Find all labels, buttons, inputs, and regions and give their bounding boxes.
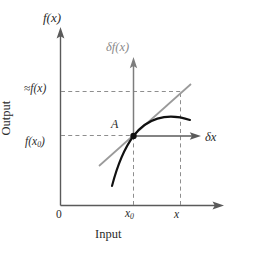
point-a-marker <box>130 133 136 139</box>
derivative-linearization-figure: f(x) δf(x) δx ≈f(x) f(x0) A 0 x0 x Input… <box>0 0 253 254</box>
delta-x-axis-label: δx <box>205 131 216 144</box>
y-axis-label: f(x) <box>43 11 61 24</box>
x-axis-name: Input <box>95 228 121 241</box>
x0-subscript: 0 <box>130 212 134 221</box>
y-tick-label-approx-fx: ≈f(x) <box>24 83 46 95</box>
y-axis-name: Output <box>0 101 13 136</box>
function-curve <box>112 117 190 186</box>
main-axes <box>57 27 224 209</box>
y-tick-label-fx0: f(x0) <box>25 136 45 149</box>
fx0-base: f(x <box>25 135 37 147</box>
fx0-close: ) <box>41 135 45 147</box>
x-tick-label-x: x <box>174 209 179 221</box>
origin-label: 0 <box>56 209 62 221</box>
point-a-label: A <box>111 118 118 130</box>
approx-fx-base: f(x) <box>30 82 46 94</box>
x-tick-label-x0: x0 <box>125 208 134 221</box>
delta-f-axis-label: δf(x) <box>106 41 129 54</box>
